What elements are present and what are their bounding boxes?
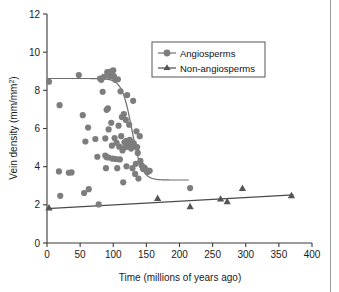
data-point-angiosperm bbox=[85, 124, 91, 130]
data-point-angiosperm bbox=[135, 175, 141, 181]
data-point-angiosperm bbox=[56, 102, 62, 108]
x-axis: 050100150200250300350400 bbox=[44, 243, 321, 260]
data-point-angiosperm bbox=[187, 185, 193, 191]
data-point-angiosperm bbox=[147, 168, 153, 174]
data-point-non-angiosperm bbox=[154, 195, 161, 201]
data-point-angiosperm bbox=[106, 126, 112, 132]
chart-canvas: 024681012 050100150200250300350400 Time … bbox=[0, 0, 339, 292]
data-point-angiosperm bbox=[126, 122, 132, 128]
data-point-angiosperm bbox=[108, 120, 114, 126]
data-point-angiosperm bbox=[76, 72, 82, 78]
data-point-angiosperm bbox=[123, 163, 129, 169]
vein-density-scatter-figure: 024681012 050100150200250300350400 Time … bbox=[0, 0, 339, 292]
data-point-angiosperm bbox=[121, 111, 127, 117]
angiosperm-data-points bbox=[46, 67, 193, 207]
data-point-angiosperm bbox=[118, 133, 124, 139]
data-point-angiosperm bbox=[102, 135, 108, 141]
x-tick-label-0: 0 bbox=[44, 249, 50, 260]
y-tick-marks bbox=[43, 14, 47, 243]
y-axis-title-base: Vein density (mm/mm bbox=[8, 84, 19, 180]
data-point-angiosperm bbox=[115, 76, 121, 82]
data-point-angiosperm bbox=[100, 89, 106, 95]
data-point-angiosperm bbox=[86, 186, 92, 192]
x-axis-title: Time (millions of years ago) bbox=[119, 272, 241, 283]
data-point-angiosperm bbox=[135, 150, 141, 156]
data-point-angiosperm bbox=[92, 136, 98, 142]
legend-marker-circle-icon bbox=[164, 50, 171, 57]
data-point-angiosperm bbox=[124, 92, 130, 98]
data-point-non-angiosperm bbox=[187, 203, 194, 209]
legend-label-angiosperms: Angiosperms bbox=[180, 48, 236, 59]
y-axis: 024681012 bbox=[29, 9, 47, 249]
x-tick-label-150: 150 bbox=[138, 249, 155, 260]
data-point-angiosperm bbox=[117, 156, 123, 162]
y-axis-title: Vein density (mm/mm2) bbox=[8, 76, 19, 179]
data-point-angiosperm bbox=[56, 168, 62, 174]
x-tick-label-250: 250 bbox=[204, 249, 221, 260]
data-point-angiosperm bbox=[117, 88, 123, 94]
x-tick-marks bbox=[47, 243, 312, 247]
legend-label-non-angiosperms: Non-angiosperms bbox=[180, 63, 255, 74]
x-tick-label-100: 100 bbox=[105, 249, 122, 260]
y-tick-label-12: 12 bbox=[29, 9, 41, 20]
non-angiosperm-trend-line bbox=[47, 195, 293, 209]
data-point-angiosperm bbox=[68, 169, 74, 175]
y-tick-label-2: 2 bbox=[34, 199, 40, 210]
y-tick-label-6: 6 bbox=[34, 123, 40, 134]
data-point-angiosperm bbox=[115, 123, 121, 129]
page-edge-artifact bbox=[330, 0, 331, 292]
data-point-angiosperm bbox=[80, 112, 86, 118]
data-point-angiosperm bbox=[130, 98, 136, 104]
data-point-angiosperm bbox=[94, 154, 100, 160]
x-tick-labels: 050100150200250300350400 bbox=[44, 249, 321, 260]
x-tick-label-200: 200 bbox=[171, 249, 188, 260]
y-axis-title-tail: ) bbox=[8, 76, 19, 79]
y-tick-labels: 024681012 bbox=[29, 9, 41, 249]
y-tick-label-10: 10 bbox=[29, 47, 41, 58]
data-point-angiosperm bbox=[103, 165, 109, 171]
y-tick-label-8: 8 bbox=[34, 85, 40, 96]
chart-legend: Angiosperms Non-angiosperms bbox=[152, 42, 265, 77]
x-tick-label-350: 350 bbox=[271, 249, 288, 260]
data-point-angiosperm bbox=[134, 144, 140, 150]
data-point-angiosperm bbox=[57, 193, 63, 199]
data-point-angiosperm bbox=[110, 67, 116, 73]
data-point-non-angiosperm bbox=[239, 184, 246, 190]
y-tick-label-0: 0 bbox=[34, 238, 40, 249]
data-point-angiosperm bbox=[105, 105, 111, 111]
data-point-angiosperm bbox=[82, 138, 88, 144]
y-tick-label-4: 4 bbox=[34, 161, 40, 172]
x-tick-label-50: 50 bbox=[75, 249, 87, 260]
data-point-angiosperm bbox=[96, 201, 102, 207]
x-tick-label-300: 300 bbox=[237, 249, 254, 260]
data-point-angiosperm bbox=[114, 165, 120, 171]
data-point-angiosperm bbox=[120, 179, 126, 185]
x-tick-label-400: 400 bbox=[304, 249, 321, 260]
data-point-angiosperm bbox=[46, 79, 52, 85]
angiosperm-fit-curve bbox=[47, 79, 189, 181]
data-point-angiosperm bbox=[137, 133, 143, 139]
